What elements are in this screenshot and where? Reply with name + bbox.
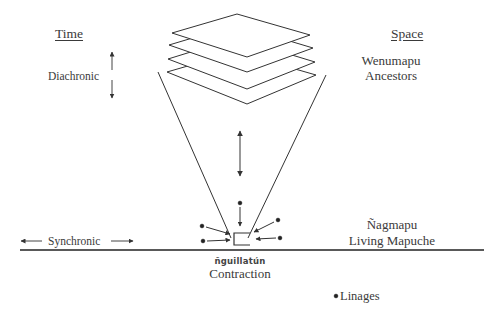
lineage-dot [278,236,282,240]
lineage-dot [238,201,242,205]
linages-label: Linages [340,289,380,304]
ancestors-label: Ancestors [365,68,417,83]
nagmapu-label: Ñagmapu [367,217,418,232]
diagram-canvas: Time Space Diachronic Wenumapu Ancestors… [0,0,499,309]
wenumapu-label: Wenumapu [362,53,421,68]
living-mapuche-label: Living Mapuche [349,233,435,248]
legend-dot [334,294,338,298]
time-header: Time [55,26,83,41]
synchronic-label: Synchronic [48,234,100,249]
space-header: Space [391,26,423,41]
contraction-label: Contraction [209,266,270,281]
lineage-dot [201,239,205,243]
contraction-bracket [234,233,250,245]
funnel-left-line [158,72,231,238]
lineage-dot [200,224,204,228]
stacked-planes [167,14,316,104]
lineage-dot [276,218,280,222]
funnel-right-line [248,75,326,238]
diachronic-label: Diachronic [48,69,99,84]
